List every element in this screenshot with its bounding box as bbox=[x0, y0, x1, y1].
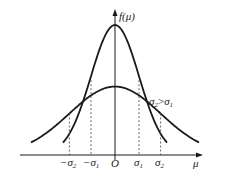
tick-label-sigma2: σ2 bbox=[155, 156, 164, 170]
sigma-comparison-annotation: σ2>σ1 bbox=[149, 95, 173, 109]
origin-label: O bbox=[111, 157, 119, 169]
y-axis-arrow bbox=[113, 9, 118, 16]
tick-label-sigma1: σ1 bbox=[134, 156, 143, 170]
tick-label-neg-sigma2: −σ2 bbox=[60, 156, 77, 170]
y-axis-label: f(μ) bbox=[119, 10, 135, 23]
tick-label-neg-sigma1: −σ1 bbox=[83, 156, 99, 170]
x-axis-label: μ bbox=[192, 157, 199, 169]
normal-distribution-diagram: f(μ) μ O −σ2 −σ1 σ1 σ2 σ2>σ1 bbox=[0, 0, 225, 180]
